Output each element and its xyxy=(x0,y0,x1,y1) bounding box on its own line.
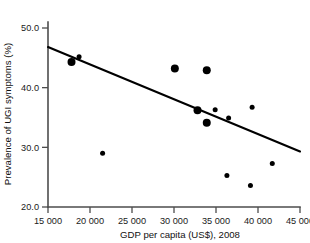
x-tick-label: 35 000 xyxy=(202,216,230,226)
data-points-group xyxy=(68,54,275,188)
data-point xyxy=(68,58,76,66)
data-point xyxy=(203,66,211,74)
scatter-chart-figure: 20.030.040.050.0 15 00020 00025 00030 00… xyxy=(0,0,310,243)
regression-line xyxy=(48,47,300,151)
data-point xyxy=(194,106,202,114)
data-point xyxy=(100,151,105,156)
data-point xyxy=(203,119,211,127)
data-point xyxy=(171,65,179,73)
y-tick-label: 50.0 xyxy=(21,23,39,33)
data-point xyxy=(213,107,218,112)
y-tick-label: 20.0 xyxy=(21,202,39,212)
x-axis-ticks: 15 00020 00025 00030 00035 00040 00045 0… xyxy=(34,207,310,226)
y-tick-label: 30.0 xyxy=(21,143,39,153)
y-tick-label: 40.0 xyxy=(21,83,39,93)
data-point xyxy=(226,116,231,121)
x-tick-label: 45 000 xyxy=(286,216,310,226)
x-tick-label: 20 000 xyxy=(76,216,104,226)
data-point xyxy=(224,173,229,178)
chart-canvas: 20.030.040.050.0 15 00020 00025 00030 00… xyxy=(0,0,310,243)
x-tick-label: 25 000 xyxy=(118,216,146,226)
data-point xyxy=(248,183,253,188)
y-axis-title: Prevalence of UGI symptoms (%) xyxy=(2,43,13,185)
data-point xyxy=(270,161,275,166)
x-tick-label: 40 000 xyxy=(244,216,272,226)
x-tick-label: 15 000 xyxy=(34,216,62,226)
y-axis-ticks: 20.030.040.050.0 xyxy=(21,23,48,212)
x-axis-title: GDP per capita (US$), 2008 xyxy=(120,229,240,240)
data-point xyxy=(250,105,255,110)
x-tick-label: 30 000 xyxy=(160,216,188,226)
data-point xyxy=(77,54,82,59)
regression-line-group xyxy=(48,47,300,151)
